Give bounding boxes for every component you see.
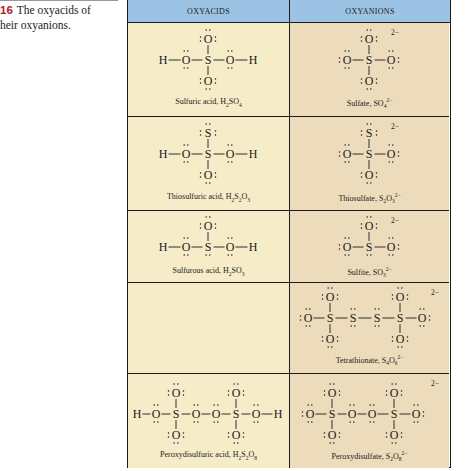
charge-label: 2− <box>391 122 399 131</box>
svg-text:O: O <box>226 147 235 161</box>
svg-text:O: O <box>365 168 374 182</box>
label-peroxydisulfate: Peroxydisulfate, S2O82− <box>290 450 449 462</box>
svg-text:O: O <box>390 386 399 400</box>
cell-empty-acid <box>128 283 290 373</box>
charge-label: 2− <box>431 379 439 388</box>
oxyacid-table: OXYACIDS OXYANIONS OSOOOHH Sulfuric acid… <box>127 0 451 468</box>
svg-text:S: S <box>366 147 373 161</box>
svg-text:H: H <box>159 53 168 67</box>
svg-text:O: O <box>396 332 405 346</box>
svg-text:S: S <box>205 53 212 67</box>
svg-text:H: H <box>159 240 168 254</box>
label-sulfate: Sulfate, SO42− <box>290 97 449 109</box>
svg-text:O: O <box>204 32 213 46</box>
cell-sulfite: OSOO 2− Sulfite, SO32− <box>290 211 449 282</box>
caption-line2: heir oxyanions. <box>0 19 71 31</box>
svg-text:O: O <box>328 386 337 400</box>
svg-text:H: H <box>274 407 283 421</box>
svg-text:O: O <box>412 407 421 421</box>
cell-sulfate: OSOOO 2− Sulfate, SO42− <box>290 23 449 116</box>
svg-text:O: O <box>365 74 374 88</box>
charge-label: 2− <box>391 28 399 37</box>
table-row-sulfuric: OSOOOHH Sulfuric acid, H2SO4 OSOOO 2− Su… <box>128 23 449 117</box>
label-peroxydisulfuric-acid: Peroxydisulfuric acid, H2S2O8 <box>128 450 289 461</box>
caption-line1: The oxyacids of <box>17 4 91 16</box>
svg-text:O: O <box>226 53 235 67</box>
svg-text:O: O <box>226 240 235 254</box>
svg-text:O: O <box>204 168 213 182</box>
svg-text:S: S <box>366 126 373 140</box>
svg-text:S: S <box>205 147 212 161</box>
header-oxyanions: OXYANIONS <box>290 0 450 23</box>
svg-text:O: O <box>343 53 352 67</box>
svg-text:O: O <box>343 147 352 161</box>
cell-thiosulfuric-acid: SSOOOHH Thiosulfuric acid, H2S2O3 <box>128 117 290 210</box>
svg-text:O: O <box>172 386 181 400</box>
svg-text:O: O <box>232 428 241 442</box>
svg-text:O: O <box>365 219 374 233</box>
svg-text:O: O <box>172 428 181 442</box>
svg-text:O: O <box>204 219 213 233</box>
svg-text:S: S <box>205 240 212 254</box>
svg-text:O: O <box>152 407 161 421</box>
svg-text:S: S <box>327 311 334 325</box>
svg-text:S: S <box>366 53 373 67</box>
table-row-tetrathionate: OSOOSOOSSO 2− Tetrathionate, S4O62− <box>128 283 449 374</box>
svg-text:O: O <box>390 428 399 442</box>
svg-text:S: S <box>366 240 373 254</box>
label-sulfuric-acid: Sulfuric acid, H2SO4 <box>128 97 289 108</box>
svg-text:O: O <box>306 407 315 421</box>
svg-text:O: O <box>343 240 352 254</box>
cell-thiosulfate: SSOOO 2− Thiosulfate, S2O32− <box>290 117 449 210</box>
svg-text:O: O <box>328 428 337 442</box>
svg-text:O: O <box>387 240 396 254</box>
header-oxyacids: OXYACIDS <box>128 0 290 23</box>
svg-text:S: S <box>233 407 240 421</box>
cell-sulfurous-acid: OSOOHH Sulfurous acid, H2SO3 <box>128 211 290 282</box>
charge-label: 2− <box>391 216 399 225</box>
svg-text:S: S <box>391 407 398 421</box>
cell-peroxydisulfate: OSOOSOOOOO 2− Peroxydisulfate, S2O82− <box>290 374 449 468</box>
svg-text:O: O <box>326 332 335 346</box>
svg-text:O: O <box>368 407 377 421</box>
label-sulfite: Sulfite, SO32− <box>290 266 449 278</box>
table-row-peroxydisulfuric: OSOOSOHOOOOH Peroxydisulfuric acid, H2S2… <box>128 374 449 468</box>
svg-text:O: O <box>326 290 335 304</box>
svg-text:H: H <box>133 407 142 421</box>
label-thiosulfate: Thiosulfate, S2O32− <box>290 192 449 204</box>
label-tetrathionate: Tetrathionate, S4O62− <box>290 354 449 366</box>
svg-text:O: O <box>252 407 261 421</box>
svg-text:O: O <box>418 311 427 325</box>
svg-text:O: O <box>396 290 405 304</box>
svg-text:O: O <box>348 407 357 421</box>
charge-label: 2− <box>431 288 439 297</box>
svg-text:O: O <box>232 386 241 400</box>
cell-tetrathionate: OSOOSOOSSO 2− Tetrathionate, S4O62− <box>290 283 449 373</box>
svg-text:S: S <box>350 311 357 325</box>
figure-number: 16 <box>0 4 13 16</box>
svg-text:O: O <box>304 311 313 325</box>
svg-text:H: H <box>249 53 258 67</box>
svg-text:O: O <box>365 32 374 46</box>
svg-text:S: S <box>173 407 180 421</box>
label-sulfurous-acid: Sulfurous acid, H2SO3 <box>128 266 289 277</box>
svg-text:O: O <box>182 240 191 254</box>
svg-text:O: O <box>387 147 396 161</box>
svg-text:S: S <box>205 126 212 140</box>
caption-rule <box>0 0 118 1</box>
svg-text:O: O <box>182 53 191 67</box>
svg-text:O: O <box>182 147 191 161</box>
table-row-thiosulfuric: SSOOOHH Thiosulfuric acid, H2S2O3 SSOOO … <box>128 117 449 211</box>
svg-text:H: H <box>159 147 168 161</box>
cell-sulfuric-acid: OSOOOHH Sulfuric acid, H2SO4 <box>128 23 290 116</box>
label-thiosulfuric-acid: Thiosulfuric acid, H2S2O3 <box>128 192 289 203</box>
svg-text:O: O <box>192 407 201 421</box>
svg-text:S: S <box>397 311 404 325</box>
svg-text:O: O <box>387 53 396 67</box>
table-row-sulfurous: OSOOHH Sulfurous acid, H2SO3 OSOO 2− Sul… <box>128 211 449 283</box>
svg-text:H: H <box>249 147 258 161</box>
svg-text:H: H <box>249 240 258 254</box>
svg-text:O: O <box>204 74 213 88</box>
figure-caption: 16The oxyacids of heir oxyanions. <box>0 3 120 33</box>
svg-text:O: O <box>212 407 221 421</box>
